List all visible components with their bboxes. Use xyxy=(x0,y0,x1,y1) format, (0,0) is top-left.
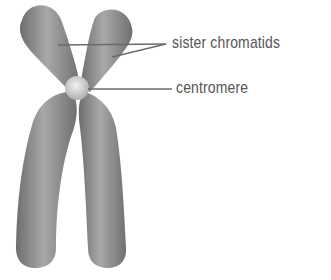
chromosome-diagram xyxy=(0,0,331,280)
chromatid-lower-right xyxy=(79,92,126,268)
sister-chromatids-label: sister chromatids xyxy=(172,33,280,53)
chromatid-upper-right xyxy=(80,10,132,92)
centromere-ball xyxy=(65,76,89,100)
centromere-label: centromere xyxy=(176,78,248,98)
chromatid-lower-left xyxy=(16,92,77,268)
